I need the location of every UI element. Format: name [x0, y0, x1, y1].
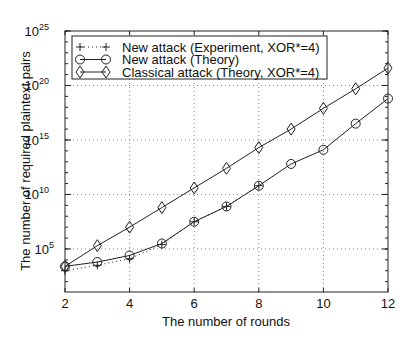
x-tick-label: 8	[255, 296, 262, 311]
x-tick-label: 12	[381, 296, 395, 311]
series-circle	[61, 94, 393, 271]
chart: 24681012 1051010101510201025 The number …	[0, 0, 414, 343]
series-line	[65, 68, 388, 266]
data-series	[61, 62, 393, 275]
y-tick-label: 1025	[25, 22, 49, 39]
x-axis-title: The number of rounds	[162, 314, 290, 329]
x-tick-label: 6	[191, 296, 198, 311]
x-tick-label: 2	[61, 296, 68, 311]
y-axis-title: The number of required plaintext pairs	[18, 51, 33, 271]
x-tick-labels: 24681012	[61, 296, 395, 311]
y-tick-label: 105	[35, 240, 54, 257]
x-tick-label: 4	[126, 296, 133, 311]
series-line	[65, 186, 259, 271]
series-line	[65, 99, 388, 267]
series-diamond	[61, 62, 392, 272]
x-tick-label: 10	[316, 296, 330, 311]
series-plus	[61, 182, 263, 275]
legend: New attack (Experiment, XOR*=4)New attac…	[72, 36, 327, 80]
legend-label: Classical attack (Theory, XOR*=4)	[122, 65, 319, 80]
